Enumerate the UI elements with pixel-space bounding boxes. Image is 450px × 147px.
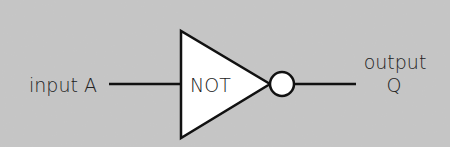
diagram-svg: input A NOT output Q <box>0 0 450 147</box>
input-label: input A <box>29 74 97 96</box>
output-label: output <box>364 51 427 73</box>
gate-label: NOT <box>190 74 231 96</box>
output-variable-label: Q <box>387 74 402 96</box>
not-gate-diagram: input A NOT output Q <box>0 0 450 147</box>
inversion-bubble-icon <box>270 72 294 96</box>
